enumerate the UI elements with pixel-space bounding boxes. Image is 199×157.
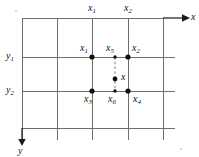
- grid-interpolation-figure: x y x1 x2 y1 y2 x1 x5 x2 x x3 x6 x4: [0, 0, 199, 157]
- point-label-x: x: [121, 72, 125, 82]
- scan-speck-top-left: [15, 10, 17, 12]
- axis-label-x: x: [191, 12, 195, 22]
- point-label-x2: x2: [132, 43, 140, 55]
- column-label-x1: x1: [88, 3, 96, 15]
- point-label-x1: x1: [80, 43, 88, 55]
- column-label-x2: x2: [124, 3, 132, 15]
- point-x: [113, 77, 118, 82]
- point-x2: [125, 54, 130, 59]
- grid-horizontal-lines: [22, 18, 175, 128]
- axis-label-y: y: [18, 146, 22, 156]
- point-x4: [125, 88, 130, 93]
- point-label-x4: x4: [133, 94, 141, 106]
- point-label-x5: x5: [106, 43, 114, 55]
- scan-speck-bottom-right: [180, 148, 182, 150]
- point-x6: [113, 89, 116, 92]
- x-axis-arrowhead: [182, 14, 190, 22]
- diagram-canvas: [0, 0, 199, 157]
- row-label-y1: y1: [6, 51, 14, 63]
- point-label-x3: x3: [84, 94, 92, 106]
- grid-vertical-lines: [22, 18, 163, 140]
- row-label-y2: y2: [6, 85, 14, 97]
- point-label-x6: x6: [108, 94, 116, 106]
- point-x5: [113, 55, 116, 58]
- point-x3: [89, 88, 94, 93]
- point-x1: [89, 54, 94, 59]
